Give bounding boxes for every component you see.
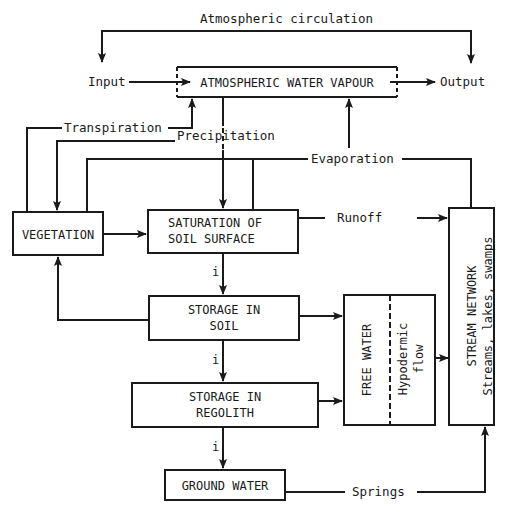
- ground-water-title: GROUND WATER: [165, 478, 285, 494]
- precipitation-label: Precipitation: [175, 130, 277, 143]
- runoff-label: Runoff: [335, 212, 384, 225]
- hypodermic-flow-title: Hypodermic flow: [395, 309, 429, 409]
- input-label: Input: [86, 76, 128, 89]
- infiltration-marker-2: i: [212, 354, 219, 366]
- storage-regolith-line-2: REGOLITH: [132, 405, 318, 421]
- output-label: Output: [438, 76, 487, 89]
- springs-label: Springs: [350, 486, 407, 499]
- precipitation-line: [57, 141, 175, 210]
- storage-regolith-title: STORAGE IN REGOLITH: [132, 389, 318, 421]
- saturation-line-2: SOIL SURFACE: [168, 231, 298, 247]
- atmospheric-circulation-label: Atmospheric circulation: [198, 13, 375, 26]
- atmospheric-water-vapour-title: ATMOSPHERIC WATER VAPOUR: [177, 75, 397, 91]
- storage-soil-line-1: STORAGE IN: [149, 302, 299, 318]
- saturation-line-1: SATURATION OF: [168, 215, 298, 231]
- evaporation-line: [87, 159, 308, 212]
- hypodermic-line-2: flow: [411, 309, 427, 409]
- free-water-title: FREE WATER: [359, 310, 375, 410]
- storage-regolith-line-1: STORAGE IN: [132, 389, 318, 405]
- transpiration-label: Transpiration: [62, 122, 164, 135]
- stream-network-line-1: STREAM NETWORK: [464, 231, 480, 401]
- evaporation-label: Evaporation: [309, 153, 396, 166]
- stream-network-line-2: Streams, lakes, swamps: [480, 231, 496, 401]
- atmospheric-circulation-loop: [102, 31, 471, 63]
- hypodermic-line-1: Hypodermic: [395, 309, 411, 409]
- stream-network-title: STREAM NETWORK Streams, lakes, swamps: [464, 231, 498, 401]
- infiltration-marker-1: i: [212, 266, 219, 278]
- saturation-title: SATURATION OF SOIL SURFACE: [148, 215, 298, 247]
- vegetation-title: VEGETATION: [13, 227, 103, 243]
- storage-soil-title: STORAGE IN SOIL: [149, 302, 299, 334]
- storage-soil-line-2: SOIL: [149, 318, 299, 334]
- infiltration-marker-3: i: [212, 441, 219, 453]
